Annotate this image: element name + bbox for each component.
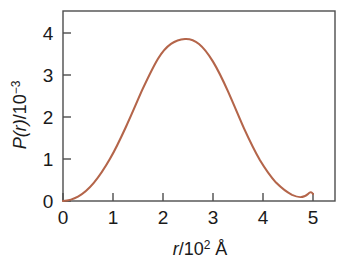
x-axis-title-slash: /10 — [179, 239, 204, 259]
y-tick-label: 4 — [43, 23, 54, 44]
x-tick-label: 3 — [208, 207, 219, 228]
y-axis-title-slash: /10 — [10, 94, 30, 119]
x-tick-label: 4 — [258, 207, 269, 228]
x-tick-label: 1 — [108, 207, 119, 228]
data-curve — [63, 39, 313, 201]
x-tick-labels: 0 1 2 3 4 5 — [58, 207, 319, 228]
chart-svg: 0 1 2 3 4 5 0 1 2 3 4 r/102 Å P(r)/10−3 — [0, 0, 354, 272]
y-axis-title-exponent: −3 — [9, 80, 23, 94]
chart-figure: 0 1 2 3 4 5 0 1 2 3 4 r/102 Å P(r)/10−3 — [0, 0, 354, 272]
y-axis-title: P(r)/10−3 — [9, 80, 30, 149]
x-tick-label: 5 — [308, 207, 319, 228]
svg-text:r/102 Å: r/102 Å — [173, 238, 228, 259]
y-tick-label: 0 — [43, 191, 54, 212]
y-axis-title-var: P(r) — [10, 119, 30, 149]
plot-frame — [63, 11, 335, 201]
y-tick-label: 3 — [43, 65, 54, 86]
x-axis-title: r/102 Å — [173, 238, 228, 259]
y-tick-label: 2 — [43, 107, 54, 128]
x-tick-marks — [63, 193, 313, 201]
y-tick-labels: 0 1 2 3 4 — [43, 23, 54, 212]
y-tick-marks — [63, 33, 71, 201]
y-tick-label: 1 — [43, 149, 54, 170]
x-tick-label: 2 — [158, 207, 169, 228]
x-axis-title-unit: Å — [210, 239, 227, 259]
x-tick-label: 0 — [58, 207, 69, 228]
svg-text:P(r)/10−3: P(r)/10−3 — [9, 80, 30, 149]
